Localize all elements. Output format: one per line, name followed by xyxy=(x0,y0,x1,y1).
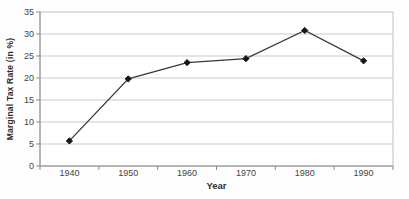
y-tick-label: 0 xyxy=(0,161,34,172)
marginal-tax-rate-line-chart: Marginal Tax Rate (in %) Year 0510152025… xyxy=(0,0,409,199)
x-tick-label: 1970 xyxy=(224,168,268,179)
y-tick-label: 35 xyxy=(0,7,34,18)
x-axis-title: Year xyxy=(40,180,393,191)
y-tick-label: 5 xyxy=(0,139,34,150)
x-tick-label: 1960 xyxy=(165,168,209,179)
y-tick-label: 30 xyxy=(0,29,34,40)
x-tick-label: 1980 xyxy=(283,168,327,179)
y-tick-label: 25 xyxy=(0,51,34,62)
y-tick-label: 15 xyxy=(0,95,34,106)
x-tick-label: 1940 xyxy=(47,168,91,179)
y-tick-label: 10 xyxy=(0,117,34,128)
y-tick-label: 20 xyxy=(0,73,34,84)
x-tick-label: 1990 xyxy=(342,168,386,179)
plot-border xyxy=(40,12,393,166)
x-tick-label: 1950 xyxy=(106,168,150,179)
